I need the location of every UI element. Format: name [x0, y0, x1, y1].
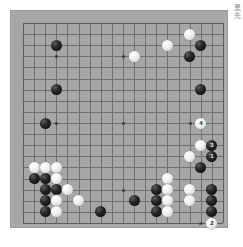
- black-stone[interactable]: [40, 206, 51, 217]
- grid-line-vertical: [223, 23, 224, 223]
- black-stone[interactable]: [95, 206, 106, 217]
- grid-line-vertical: [179, 23, 180, 223]
- go-diagram-page: a4312 黑先: [0, 0, 243, 247]
- white-stone[interactable]: [162, 195, 173, 206]
- white-stone[interactable]: [162, 184, 173, 195]
- go-board[interactable]: a4312: [10, 10, 228, 228]
- star-point: [55, 122, 58, 125]
- white-stone[interactable]: [51, 162, 62, 173]
- white-stone[interactable]: [129, 51, 140, 62]
- white-stone[interactable]: [184, 195, 195, 206]
- stone-move-number: 4: [195, 118, 206, 129]
- stone-move-number: 1: [206, 151, 217, 162]
- white-stone[interactable]: 4: [195, 118, 206, 129]
- black-stone[interactable]: [206, 206, 217, 217]
- grid-line-vertical: [145, 23, 146, 223]
- star-point: [189, 122, 192, 125]
- stone-move-number: 3: [206, 140, 217, 151]
- black-stone[interactable]: [195, 84, 206, 95]
- white-stone[interactable]: [73, 195, 84, 206]
- black-stone[interactable]: 3: [206, 140, 217, 151]
- black-stone[interactable]: [40, 173, 51, 184]
- black-stone[interactable]: [151, 206, 162, 217]
- white-stone[interactable]: [40, 162, 51, 173]
- grid-line-horizontal: [23, 134, 223, 135]
- black-stone[interactable]: [40, 118, 51, 129]
- black-stone[interactable]: [195, 40, 206, 51]
- white-stone[interactable]: [51, 195, 62, 206]
- point-a[interactable]: a: [199, 220, 202, 226]
- star-point: [55, 55, 58, 58]
- white-stone[interactable]: [184, 151, 195, 162]
- white-stone[interactable]: [162, 206, 173, 217]
- white-stone[interactable]: [29, 162, 40, 173]
- white-stone[interactable]: [162, 173, 173, 184]
- go-board-surface: a4312: [14, 14, 224, 224]
- grid-line-horizontal: [23, 145, 223, 146]
- star-point: [122, 55, 125, 58]
- white-stone[interactable]: [162, 40, 173, 51]
- black-stone[interactable]: [151, 195, 162, 206]
- black-stone[interactable]: 1: [206, 151, 217, 162]
- black-stone[interactable]: [51, 40, 62, 51]
- white-stone[interactable]: [51, 206, 62, 217]
- black-stone[interactable]: [206, 184, 217, 195]
- black-stone[interactable]: [51, 184, 62, 195]
- star-point: [122, 189, 125, 192]
- white-stone[interactable]: [51, 173, 62, 184]
- stone-move-number: 2: [206, 218, 217, 229]
- star-point: [122, 122, 125, 125]
- black-stone[interactable]: [51, 84, 62, 95]
- black-stone[interactable]: [40, 184, 51, 195]
- black-stone[interactable]: [151, 184, 162, 195]
- white-stone[interactable]: [184, 29, 195, 40]
- black-stone[interactable]: [129, 195, 140, 206]
- black-stone[interactable]: [40, 195, 51, 206]
- margin-annotation-text: 黑先: [229, 4, 241, 56]
- white-stone[interactable]: [184, 184, 195, 195]
- white-stone[interactable]: 2: [206, 218, 217, 229]
- black-stone[interactable]: [29, 173, 40, 184]
- black-stone[interactable]: [184, 51, 195, 62]
- black-stone[interactable]: [195, 162, 206, 173]
- go-board-grid: a4312: [23, 23, 223, 223]
- white-stone[interactable]: [195, 140, 206, 151]
- grid-line-horizontal: [23, 223, 223, 224]
- black-stone[interactable]: [206, 195, 217, 206]
- white-stone[interactable]: [62, 184, 73, 195]
